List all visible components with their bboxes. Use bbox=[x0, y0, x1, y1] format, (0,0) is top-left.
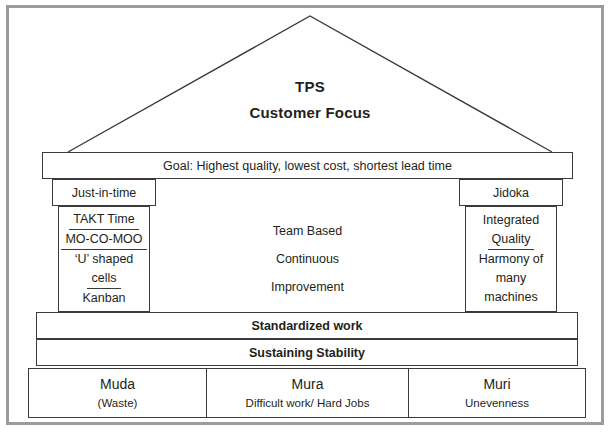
left-pillar-item: MO-CO-MOO bbox=[61, 230, 146, 250]
foundation-cell-muda: Muda (Waste) bbox=[29, 369, 207, 417]
right-pillar-item: many bbox=[496, 269, 527, 288]
foundation-cell-muri: Muri Unevenness bbox=[409, 369, 585, 417]
right-pillar-item: Quality bbox=[488, 230, 535, 250]
center-line-3: Improvement bbox=[271, 273, 344, 301]
center-content: Team Based Continuous Improvement bbox=[150, 206, 465, 312]
left-pillar-body: TAKT Time MO-CO-MOO ‘U’ shaped cells Kan… bbox=[58, 206, 150, 312]
foundation-title: Mura bbox=[292, 374, 324, 394]
roof-title: TPS Customer Focus bbox=[190, 74, 430, 126]
left-pillar-item: Kanban bbox=[82, 289, 125, 308]
left-pillar-item: ‘U’ shaped bbox=[75, 250, 134, 269]
goal-bar: Goal: Highest quality, lowest cost, shor… bbox=[42, 152, 573, 179]
foundation-cell-mura: Mura Difficult work/ Hard Jobs bbox=[207, 369, 409, 417]
sustaining-stability-label: Sustaining Stability bbox=[249, 346, 365, 360]
right-pillar-items: Integrated Quality Harmony of many machi… bbox=[466, 207, 556, 311]
roof-title-line2: Customer Focus bbox=[190, 100, 430, 126]
right-pillar-item: Integrated bbox=[483, 211, 539, 230]
center-line-1: Team Based bbox=[273, 217, 342, 245]
right-pillar-item: machines bbox=[484, 288, 538, 307]
right-pillar-header: Jidoka bbox=[459, 179, 563, 206]
standardized-work-label: Standardized work bbox=[251, 319, 362, 333]
left-pillar-header: Just-in-time bbox=[52, 179, 156, 206]
standardized-work-band: Standardized work bbox=[36, 312, 578, 339]
tps-house-diagram: TPS Customer Focus Goal: Highest quality… bbox=[0, 0, 614, 437]
roof-title-line1: TPS bbox=[190, 74, 430, 100]
sustaining-stability-band: Sustaining Stability bbox=[36, 339, 578, 366]
foundation-subtitle: (Waste) bbox=[98, 394, 138, 412]
foundation-row: Muda (Waste) Mura Difficult work/ Hard J… bbox=[28, 368, 586, 418]
foundation-subtitle: Unevenness bbox=[465, 394, 529, 412]
left-pillar-header-label: Just-in-time bbox=[72, 186, 137, 200]
left-pillar-item: TAKT Time bbox=[69, 210, 138, 230]
left-pillar-item: cells bbox=[87, 269, 120, 289]
right-pillar-item: Harmony of bbox=[479, 250, 544, 269]
foundation-subtitle: Difficult work/ Hard Jobs bbox=[246, 394, 370, 412]
right-pillar-body: Integrated Quality Harmony of many machi… bbox=[465, 206, 557, 312]
right-pillar-header-label: Jidoka bbox=[493, 186, 529, 200]
center-line-2: Continuous bbox=[276, 245, 339, 273]
goal-bar-label: Goal: Highest quality, lowest cost, shor… bbox=[163, 159, 452, 173]
foundation-title: Muda bbox=[100, 374, 135, 394]
foundation-title: Muri bbox=[483, 374, 510, 394]
left-pillar-items: TAKT Time MO-CO-MOO ‘U’ shaped cells Kan… bbox=[59, 207, 149, 311]
